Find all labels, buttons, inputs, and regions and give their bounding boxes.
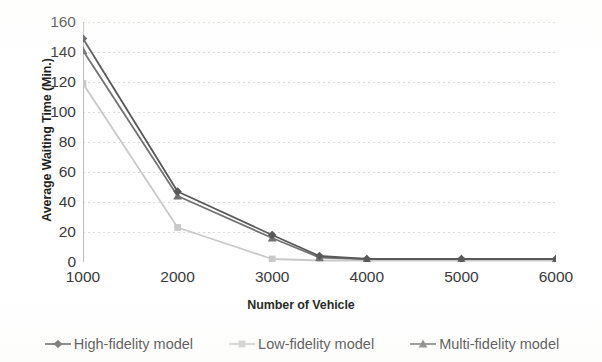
y-tick-label: 160 bbox=[30, 14, 76, 30]
x-axis-title: Number of Vehicle bbox=[0, 298, 602, 312]
data-point-marker bbox=[268, 231, 277, 240]
legend-item: Low-fidelity model bbox=[227, 337, 374, 352]
y-tick-label: 100 bbox=[30, 104, 76, 120]
y-tick-label: 80 bbox=[30, 134, 76, 150]
square-marker-icon bbox=[227, 337, 257, 351]
legend-label: High-fidelity model bbox=[74, 337, 193, 352]
chart-figure: Average Waiting Time (Min.) 020406080100… bbox=[0, 0, 602, 362]
y-tick-label: 140 bbox=[30, 44, 76, 60]
x-tick-label: 3000 bbox=[232, 268, 312, 285]
data-point-marker bbox=[83, 80, 86, 87]
data-point-marker bbox=[173, 187, 182, 196]
y-tick-label: 60 bbox=[30, 164, 76, 180]
x-tick-label: 6000 bbox=[516, 268, 596, 285]
data-point-marker bbox=[269, 256, 276, 262]
legend-item: Multi-fidelity model bbox=[408, 337, 559, 352]
series-high-fidelity-model bbox=[83, 34, 556, 262]
series-plot bbox=[83, 22, 556, 262]
legend-item: High-fidelity model bbox=[43, 337, 193, 352]
x-tick-label: 1000 bbox=[43, 268, 123, 285]
series-line bbox=[83, 39, 556, 260]
data-point-marker bbox=[174, 224, 181, 231]
y-tick-label: 40 bbox=[30, 194, 76, 210]
plot-area bbox=[83, 22, 556, 262]
data-point-marker bbox=[53, 340, 62, 349]
x-tick-label: 2000 bbox=[138, 268, 218, 285]
x-tick-label: 4000 bbox=[327, 268, 407, 285]
y-tick-label: 120 bbox=[30, 74, 76, 90]
x-tick-label: 5000 bbox=[421, 268, 501, 285]
legend-label: Multi-fidelity model bbox=[439, 337, 559, 352]
triangle-marker-icon bbox=[408, 337, 438, 351]
data-point-marker bbox=[239, 341, 246, 348]
x-axis-tick-labels: 100020003000400050006000 bbox=[0, 268, 602, 292]
chart-legend: High-fidelity modelLow-fidelity modelMul… bbox=[0, 330, 602, 358]
diamond-marker-icon bbox=[43, 337, 73, 351]
series-low-fidelity-model bbox=[83, 80, 556, 262]
legend-label: Low-fidelity model bbox=[258, 337, 374, 352]
y-tick-label: 20 bbox=[30, 224, 76, 240]
